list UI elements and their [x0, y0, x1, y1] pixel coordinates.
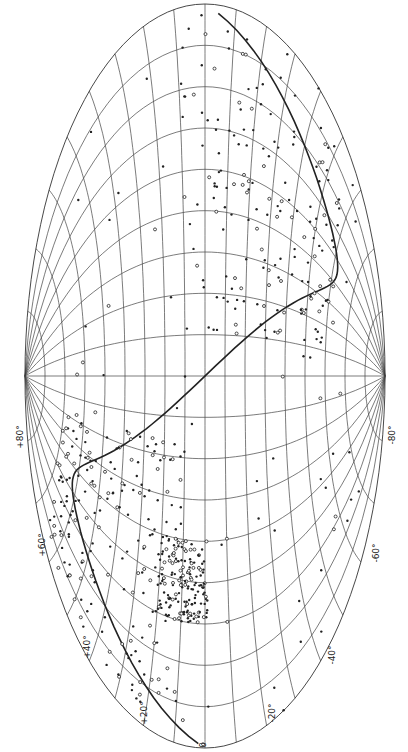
- latitude-label: -40°: [327, 645, 337, 664]
- latitude-label: +20°: [139, 701, 149, 725]
- latitude-label: -80°: [387, 425, 397, 444]
- object-markers: [49, 14, 360, 746]
- latitude-label: +40°: [82, 635, 92, 659]
- latitude-label: +60°: [37, 533, 47, 557]
- latitude-label: -60°: [371, 543, 381, 562]
- latitude-label: +80°: [15, 425, 25, 449]
- sky-map: [0, 0, 408, 752]
- latitude-label: 0: [198, 742, 208, 748]
- latitude-label: -20°: [267, 703, 277, 722]
